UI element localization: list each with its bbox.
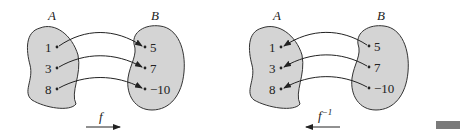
set-b-label: B: [377, 8, 385, 23]
range-value-neg10: −10: [150, 82, 170, 97]
domain-value-3: 3: [45, 61, 52, 76]
range-value-7: 7: [150, 61, 157, 76]
range-value-neg10: −10: [374, 81, 394, 96]
diagram-f-inverse: A B 1 3 8 5 7 −10 f−1: [249, 8, 408, 127]
diagram-f: A B 1 3 8 5 7 −10 f: [27, 8, 184, 127]
set-a-blob: [249, 27, 302, 109]
domain-value-8: 8: [45, 82, 52, 97]
domain-value-3: 3: [269, 61, 276, 76]
set-a-label: A: [272, 8, 281, 23]
domain-value-1: 1: [269, 40, 276, 55]
set-b-label: B: [151, 8, 159, 23]
set-a-label: A: [47, 8, 56, 23]
gray-marker: [436, 121, 460, 129]
range-value-5: 5: [150, 40, 157, 55]
function-label: f−1: [318, 107, 332, 123]
range-value-5: 5: [374, 39, 381, 54]
domain-value-8: 8: [269, 82, 276, 97]
domain-value-1: 1: [45, 40, 52, 55]
function-diagrams: A B 1 3 8 5 7 −10 f A B 1 3 8: [0, 0, 464, 139]
range-value-7: 7: [374, 60, 381, 75]
function-label: f: [99, 109, 105, 124]
